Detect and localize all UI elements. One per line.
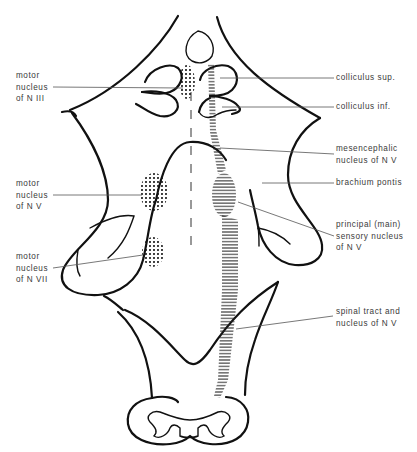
label-line: of N V [336, 242, 403, 254]
label-line: nucleus of N V [336, 155, 398, 167]
motor-nucleus-n-vii-region [142, 237, 164, 267]
label-motor-nucleus-n-iii: motor nucleus of N III [16, 70, 48, 105]
label-line: of N VII [16, 274, 48, 286]
label-line: principal (main) [336, 219, 403, 231]
label-line: spinal tract and [336, 306, 400, 318]
label-line: nucleus [16, 263, 48, 275]
label-line: nucleus of N V [336, 318, 400, 330]
principal-sensory-nucleus-region [212, 173, 236, 217]
label-line: nucleus [16, 190, 48, 202]
label-colliculus-inf: colliculus inf. [336, 101, 391, 113]
label-brachium-pontis: brachium pontis [336, 177, 402, 189]
label-line: motor [16, 251, 48, 263]
label-colliculus-sup: colliculus sup. [336, 72, 395, 84]
spinal-tract-region [214, 215, 238, 398]
motor-nucleus-n-v-region [140, 173, 168, 211]
label-line: mesencephalic [336, 143, 398, 155]
label-motor-nucleus-n-vii: motor nucleus of N VII [16, 251, 48, 286]
label-motor-nucleus-n-v: motor nucleus of N V [16, 178, 48, 213]
label-line: of N III [16, 93, 48, 105]
label-line: brachium pontis [336, 177, 402, 189]
label-line: motor [16, 178, 48, 190]
label-spinal-tract-nucleus-n-v: spinal tract and nucleus of N V [336, 306, 400, 329]
label-line: colliculus sup. [336, 72, 395, 84]
label-line: motor [16, 70, 48, 82]
motor-nucleus-n-iii-region [179, 65, 195, 99]
label-line: nucleus [16, 82, 48, 94]
label-line: sensory nucleus [336, 231, 403, 243]
label-principal-sensory-nucleus-n-v: principal (main) sensory nucleus of N V [336, 219, 403, 254]
leader-lines [53, 78, 334, 329]
label-line: of N V [16, 201, 48, 213]
label-line: colliculus inf. [336, 101, 391, 113]
label-mesencephalic-nucleus-n-v: mesencephalic nucleus of N V [336, 143, 398, 166]
spinal-cord-section [128, 397, 249, 445]
